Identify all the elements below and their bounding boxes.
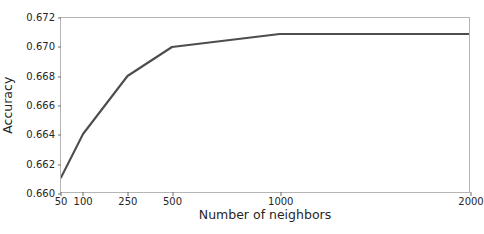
- x-axis-tick-label: 1000: [268, 197, 293, 207]
- x-axis-tick-label: 50: [55, 197, 68, 207]
- x-axis-tick-label: 250: [118, 197, 137, 207]
- y-axis-tick-mark: [58, 164, 62, 165]
- line-series-svg: [61, 18, 469, 192]
- x-axis-tick-label: 100: [74, 197, 93, 207]
- y-axis-tick-label: 0.662: [26, 160, 61, 170]
- y-axis-label: Accuracy: [2, 17, 16, 193]
- y-axis-tick-mark: [58, 18, 62, 19]
- x-axis-tick-mark: [280, 192, 281, 196]
- x-axis-tick-label: 2000: [458, 197, 483, 207]
- x-axis-tick-mark: [172, 192, 173, 196]
- accuracy-line: [61, 34, 469, 178]
- x-axis-label-text: Number of neighbors: [199, 207, 331, 222]
- y-axis-tick-mark: [58, 106, 62, 107]
- y-axis-tick-label: 0.664: [26, 130, 61, 140]
- y-axis-tick-mark: [58, 76, 62, 77]
- x-axis-tick-mark: [471, 192, 472, 196]
- y-axis-tick-mark: [58, 47, 62, 48]
- y-axis-tick-label: 0.672: [26, 13, 61, 23]
- y-axis-tick-label: 0.668: [26, 72, 61, 82]
- x-axis-tick-mark: [127, 192, 128, 196]
- x-axis-tick-label: 500: [163, 197, 182, 207]
- y-axis-tick-label: 0.670: [26, 42, 61, 52]
- x-axis-tick-mark: [61, 192, 62, 196]
- y-axis-label-text: Accuracy: [3, 76, 16, 133]
- plot-area: 0.6600.6620.6640.6660.6680.6700.67250100…: [60, 17, 470, 193]
- x-axis-label: Number of neighbors: [60, 209, 470, 222]
- y-axis-tick-mark: [58, 135, 62, 136]
- y-axis-tick-label: 0.666: [26, 101, 61, 111]
- x-axis-tick-mark: [83, 192, 84, 196]
